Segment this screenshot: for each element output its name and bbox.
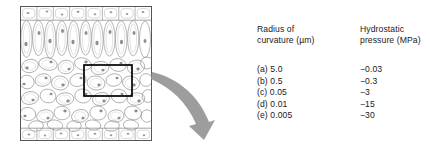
table-row: (b) 0.5 −0.3 [248,76,430,88]
table-row: (d) 0.01 −15 [248,99,430,111]
magnification-arrow [151,72,215,140]
pressure-value: −0.03 [360,64,382,76]
table-row: (c) 0.05 −3 [248,87,430,99]
pressure-value: −0.3 [360,76,377,88]
table-header-row: Radius of curvature (µm) Hydrostatic pre… [248,24,430,54]
table-row: (e) 0.005 −30 [248,110,430,122]
radius-value: (d) 0.01 [257,99,287,111]
column-header-radius: Radius of curvature (µm) [257,24,314,47]
table-body: (a) 5.0 −0.03 (b) 0.5 −0.3 (c) 0.05 −3 (… [248,64,430,122]
leaf-cross-section-diagram [0,0,230,162]
table-row: (a) 5.0 −0.03 [248,64,430,76]
radius-value: (b) 0.5 [257,76,283,88]
pressure-value: −30 [360,110,375,122]
radius-value: (e) 0.005 [257,110,292,122]
pressure-value: −15 [360,99,375,111]
radius-value: (c) 0.05 [257,87,287,99]
column-header-pressure: Hydrostatic pressure (MPa) [360,24,421,47]
pressure-value: −3 [360,87,370,99]
radius-value: (a) 5.0 [257,64,283,76]
pressure-data-table: Radius of curvature (µm) Hydrostatic pre… [248,24,430,122]
